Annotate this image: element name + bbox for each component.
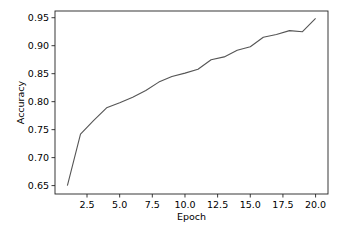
y-tick-label: 0.70 [28, 152, 49, 163]
x-axis-label: Epoch [177, 211, 206, 222]
y-tick-label: 0.95 [28, 12, 49, 23]
x-tick-label: 12.5 [207, 199, 228, 210]
x-tick-label: 7.5 [145, 199, 160, 210]
plot-border [55, 11, 328, 194]
y-tick-label: 0.85 [28, 68, 49, 79]
y-tick-label: 0.90 [28, 40, 49, 51]
data-series [67, 18, 315, 185]
x-axis: 2.55.07.510.012.515.017.520.0 [79, 194, 326, 210]
x-tick-label: 5.0 [112, 199, 127, 210]
x-tick-label: 2.5 [79, 199, 94, 210]
x-tick-label: 15.0 [240, 199, 261, 210]
y-tick-label: 0.65 [28, 180, 49, 191]
y-axis-label: Accuracy [15, 80, 26, 124]
x-tick-label: 17.5 [272, 199, 293, 210]
x-tick-label: 20.0 [305, 199, 326, 210]
y-tick-label: 0.75 [28, 124, 49, 135]
plot-frame [55, 11, 328, 194]
y-axis: 0.650.700.750.800.850.900.95 [28, 12, 55, 191]
y-tick-label: 0.80 [28, 96, 49, 107]
accuracy-line [67, 18, 315, 185]
x-tick-label: 10.0 [174, 199, 195, 210]
accuracy-line-chart: 0.650.700.750.800.850.900.95 2.55.07.510… [0, 0, 345, 231]
